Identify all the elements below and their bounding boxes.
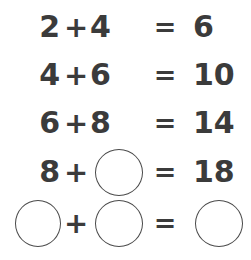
equation-row-4: 8 + = 18 <box>0 148 251 196</box>
addition-puzzle-worksheet: 2 + 4 = 6 4 + 6 = 10 6 + 8 = 14 8 + = 18… <box>0 0 251 260</box>
answer-row-4: 18 <box>193 148 249 196</box>
equation-row-2: 4 + 6 = 10 <box>0 51 251 99</box>
operand-b-row-1: 4 <box>90 3 138 51</box>
plus-sign-row-2: + <box>64 51 86 99</box>
operand-b-row-2: 6 <box>90 51 138 99</box>
blank-circle-operand-b-row-4[interactable] <box>95 149 143 196</box>
equation-row-1: 2 + 4 = 6 <box>0 3 251 51</box>
equals-sign-row-3: = <box>152 99 178 147</box>
plus-sign-row-4: + <box>64 148 86 196</box>
plus-sign-row-1: + <box>64 3 86 51</box>
operand-b-row-3: 8 <box>90 99 138 147</box>
operand-a-row-1: 2 <box>14 3 60 51</box>
operand-a-row-2: 4 <box>14 51 60 99</box>
operand-a-row-4: 8 <box>14 148 60 196</box>
equals-sign-row-2: = <box>152 51 178 99</box>
operand-a-row-3: 6 <box>14 99 60 147</box>
blank-circle-operand-a-row-5[interactable] <box>15 200 61 247</box>
blank-circle-operand-b-row-5[interactable] <box>95 200 143 247</box>
plus-sign-row-5: + <box>64 199 86 247</box>
answer-row-3: 14 <box>193 99 249 147</box>
equals-sign-row-5: = <box>152 199 178 247</box>
equation-row-5: + = <box>0 199 251 247</box>
answer-row-2: 10 <box>193 51 249 99</box>
plus-sign-row-3: + <box>64 99 86 147</box>
equals-sign-row-1: = <box>152 3 178 51</box>
equals-sign-row-4: = <box>152 148 178 196</box>
blank-circle-answer-row-5[interactable] <box>195 200 243 247</box>
answer-row-1: 6 <box>193 3 249 51</box>
equation-row-3: 6 + 8 = 14 <box>0 99 251 147</box>
